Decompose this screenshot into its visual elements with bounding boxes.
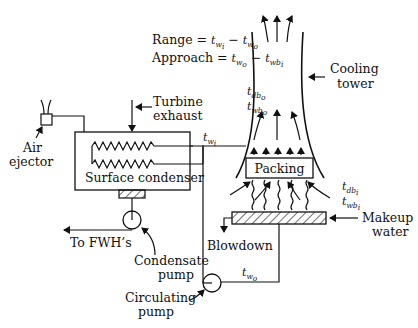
t-wb-o-label: twbo xyxy=(247,100,268,117)
svg-text:Approach = two − twbi: Approach = two − twbi xyxy=(151,50,284,69)
turbine-exhaust-label: Turbine xyxy=(153,94,203,109)
cooling-tower-label: Cooling xyxy=(330,61,379,76)
tower-right-wall xyxy=(302,32,324,178)
t-w-o-label: two xyxy=(242,266,258,283)
makeup-water-label-2: water xyxy=(372,224,409,239)
falling-water xyxy=(230,180,330,210)
vent-icon xyxy=(48,100,51,114)
svg-text:Range = twi − two: Range = twi − two xyxy=(152,32,259,51)
condensate-pump-label-2: pump xyxy=(158,267,194,282)
air-arrow-icon xyxy=(254,112,262,140)
surface-condenser-label: Surface condenser xyxy=(85,170,204,185)
air-ejector-label-2: ejector xyxy=(9,154,53,169)
exhaust-arrow-icon xyxy=(287,16,292,42)
vent-icon xyxy=(41,100,44,114)
air-ejector-label: Air xyxy=(22,140,42,155)
blowdown-arrow-icon xyxy=(224,218,232,232)
cooling-system-diagram: Range = twi − two Approach = two − twbi … xyxy=(0,0,418,328)
approach-equation: Approach = two − twbi xyxy=(151,50,284,69)
packing-label: Packing xyxy=(255,161,305,176)
spray-arrows xyxy=(254,148,301,155)
air-ejector-pointer-icon xyxy=(36,127,42,138)
hotwell xyxy=(119,190,145,198)
t-wb-i-label: twbi xyxy=(342,195,361,212)
air-ejector xyxy=(41,114,52,125)
circulating-pump-label: Circulating xyxy=(125,290,196,305)
blowdown-label: Blowdown xyxy=(207,238,273,253)
to-fwh-label: To FWH’s xyxy=(70,235,132,250)
circulating-pump-label-2: pump xyxy=(138,304,174,319)
cooling-tower-label-2: tower xyxy=(337,76,374,91)
air-ejector-line xyxy=(52,116,84,132)
condensate-pump-label: Condensate xyxy=(134,253,209,268)
air-arrow-icon xyxy=(292,112,300,140)
range-equation: Range = twi − two xyxy=(152,32,259,51)
condensate-pump-pointer-icon xyxy=(142,228,155,255)
makeup-water-label: Makeup xyxy=(362,210,413,225)
exhaust-arrow-icon xyxy=(263,16,268,42)
cold-water-basin xyxy=(232,212,326,224)
turbine-exhaust-label-2: exhaust xyxy=(153,108,202,123)
